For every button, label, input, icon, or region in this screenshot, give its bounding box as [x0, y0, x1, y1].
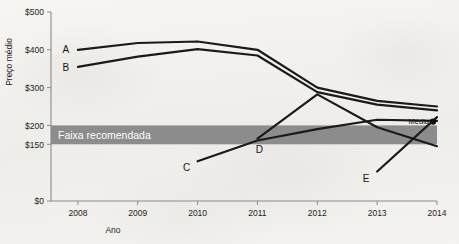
y-axis-ticks: $500$400$300$200$150$0 — [25, 7, 51, 206]
x-tick-label: 2009 — [128, 208, 147, 218]
y-tick-label: $400 — [25, 45, 44, 55]
y-tick-label: $500 — [25, 7, 44, 17]
series-label-e: E — [363, 173, 370, 184]
axes: $500$400$300$200$150$0 20082009201020112… — [25, 7, 447, 218]
x-tick-label: 2011 — [248, 208, 267, 218]
chart-annotations: Média — [409, 117, 437, 126]
x-axis-title: Ano — [105, 225, 120, 235]
series-label-c: C — [183, 162, 190, 173]
x-tick-label: 2010 — [188, 208, 207, 218]
x-tick-label: 2008 — [68, 208, 87, 218]
mean-marker-icon — [430, 118, 436, 124]
y-tick-label: $150 — [25, 140, 44, 150]
x-tick-label: 2014 — [428, 208, 447, 218]
series-label-b: B — [63, 62, 70, 73]
y-tick-label: $0 — [35, 196, 45, 206]
x-tick-label: 2012 — [308, 208, 327, 218]
y-tick-label: $200 — [25, 121, 44, 131]
series-label-d: D — [256, 144, 263, 155]
x-tick-label: 2013 — [368, 208, 387, 218]
series-line-a — [78, 41, 437, 106]
price-trend-line-chart: Faixa recomendada $500$400$300$200$150$0… — [0, 0, 459, 244]
band-label: Faixa recomendada — [58, 129, 151, 141]
chart-container: Faixa recomendada $500$400$300$200$150$0… — [0, 0, 459, 244]
mean-label: Média — [409, 117, 430, 126]
series-label-a: A — [63, 44, 70, 55]
series-labels: ABCDE — [63, 44, 370, 183]
y-tick-label: $300 — [25, 83, 44, 93]
y-axis-title: Preço médio — [4, 38, 14, 86]
x-axis-ticks: 2008200920102011201220132014 — [68, 201, 446, 218]
